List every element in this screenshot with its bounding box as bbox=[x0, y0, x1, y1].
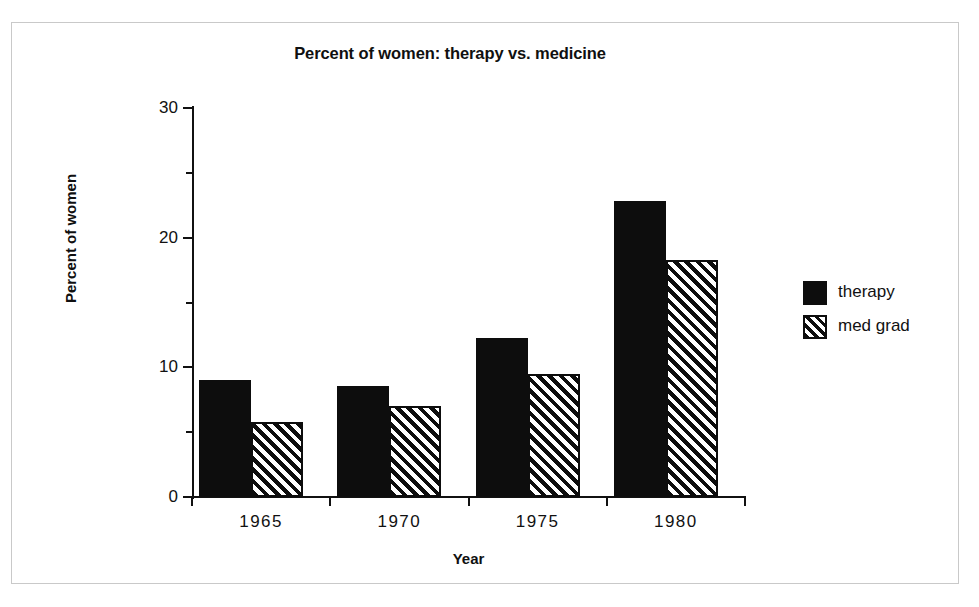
bar-therapy-1970 bbox=[337, 386, 389, 498]
y-tick-major bbox=[183, 366, 192, 368]
plot-area: 0102030 1965197019751980 bbox=[192, 108, 745, 497]
bar-med-grad-1965 bbox=[251, 422, 303, 497]
legend-label: therapy bbox=[838, 282, 895, 302]
x-tick bbox=[744, 497, 746, 506]
y-tick-label: 30 bbox=[134, 98, 178, 118]
legend-label: med grad bbox=[838, 316, 910, 336]
x-tick bbox=[606, 497, 608, 506]
y-tick-label: 20 bbox=[134, 228, 178, 248]
y-tick-major bbox=[183, 107, 192, 109]
bar-med-grad-1975 bbox=[528, 374, 580, 497]
chart-figure: Percent of women: therapy vs. medicine 0… bbox=[0, 0, 979, 607]
x-tick-label: 1980 bbox=[616, 512, 736, 532]
chart-title: Percent of women: therapy vs. medicine bbox=[150, 44, 750, 63]
x-tick bbox=[468, 497, 470, 506]
x-tick bbox=[329, 497, 331, 506]
y-tick-major bbox=[183, 237, 192, 239]
legend-swatch-hatch-icon bbox=[803, 315, 827, 339]
bar-therapy-1965 bbox=[199, 380, 251, 497]
y-axis-title: Percent of women bbox=[62, 139, 79, 339]
y-tick-minor bbox=[186, 431, 192, 433]
x-tick-label: 1970 bbox=[339, 512, 459, 532]
x-axis-title: Year bbox=[192, 550, 745, 567]
bar-med-grad-1980 bbox=[666, 260, 718, 497]
x-tick-label: 1975 bbox=[478, 512, 598, 532]
legend-swatch-solid-icon bbox=[803, 281, 827, 305]
y-tick-minor bbox=[186, 172, 192, 174]
x-tick-label: 1965 bbox=[201, 512, 321, 532]
bar-therapy-1980 bbox=[614, 201, 666, 497]
y-tick-minor bbox=[186, 302, 192, 304]
x-tick-origin bbox=[191, 497, 193, 506]
y-tick-label: 10 bbox=[134, 357, 178, 377]
bar-therapy-1975 bbox=[476, 338, 528, 497]
y-tick-label: 0 bbox=[134, 487, 178, 507]
bar-med-grad-1970 bbox=[389, 406, 441, 497]
